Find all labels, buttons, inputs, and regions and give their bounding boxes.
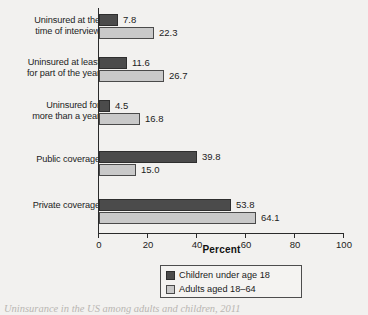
x-tick-80 (294, 234, 295, 238)
category-label-uninsured-more-than-year: Uninsured for more than a year (0, 100, 100, 122)
x-tick-100 (343, 234, 344, 238)
category-label-public-coverage: Public coverage (0, 154, 100, 165)
category-label-uninsured-at-interview: Uninsured at the time of interview (0, 15, 100, 37)
bar-adults-uninsured-more-than-year (99, 113, 140, 125)
legend-label-children: Children under age 18 (179, 270, 270, 280)
bar-value-children-uninsured-part-year: 11.6 (132, 57, 150, 69)
bar-value-children-public-coverage: 39.8 (202, 151, 221, 163)
bar-value-adults-uninsured-at-interview: 22.3 (159, 27, 178, 39)
bar-children-uninsured-part-year (99, 57, 127, 69)
figure-caption: Uninsurance in the US among adults and c… (4, 303, 364, 314)
x-tick-40 (196, 234, 197, 238)
bar-value-children-uninsured-at-interview: 7.8 (123, 14, 136, 26)
plot-area: 0 20 40 60 80 100 7.8 22.3 11.6 26.7 4.5… (99, 8, 344, 233)
x-tick-60 (245, 234, 246, 238)
legend-label-adults: Adults aged 18–64 (179, 284, 256, 294)
bar-adults-public-coverage (99, 164, 136, 176)
bar-value-adults-public-coverage: 15.0 (141, 164, 160, 176)
bar-value-children-uninsured-more-than-year: 4.5 (115, 100, 128, 112)
x-axis-line (98, 233, 344, 234)
bar-value-children-private-coverage: 53.8 (236, 199, 255, 211)
legend-item-children: Children under age 18 (166, 268, 270, 282)
chart-legend: Children under age 18 Adults aged 18–64 (160, 265, 302, 298)
bar-adults-uninsured-part-year (99, 70, 164, 82)
x-axis-title: Percent (99, 244, 344, 255)
bar-value-adults-uninsured-part-year: 26.7 (169, 70, 188, 82)
category-label-private-coverage: Private coverage (0, 200, 100, 211)
bar-chart: Uninsured at the time of interview Unins… (0, 0, 368, 315)
bar-adults-uninsured-at-interview (99, 27, 154, 39)
x-tick-20 (147, 234, 148, 238)
legend-item-adults: Adults aged 18–64 (166, 282, 256, 296)
category-label-uninsured-part-year: Uninsured at least for part of the year (0, 57, 100, 79)
legend-swatch-children-icon (166, 271, 175, 280)
bar-children-uninsured-at-interview (99, 14, 118, 26)
bar-children-public-coverage (99, 151, 197, 163)
bar-adults-private-coverage (99, 212, 256, 224)
bar-value-adults-private-coverage: 64.1 (261, 212, 280, 224)
bar-children-private-coverage (99, 199, 231, 211)
bar-value-adults-uninsured-more-than-year: 16.8 (145, 113, 164, 125)
x-tick-0 (98, 234, 99, 238)
legend-swatch-adults-icon (166, 285, 175, 294)
bar-children-uninsured-more-than-year (99, 100, 110, 112)
